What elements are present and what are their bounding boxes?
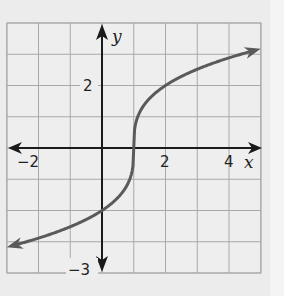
graph: 2 −3 −2 2 4 x y (0, 0, 284, 296)
x-tick-4: 4 (224, 153, 234, 171)
y-axis-label: y (111, 26, 122, 46)
y-tick-neg3: −3 (68, 261, 90, 279)
x-tick-neg2: −2 (17, 153, 39, 171)
x-axis-label: x (244, 152, 254, 172)
x-tick-2: 2 (160, 153, 170, 171)
y-tick-2: 2 (83, 77, 93, 95)
